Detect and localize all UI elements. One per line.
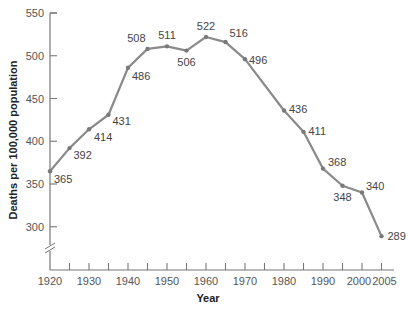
data-label: 511: [158, 29, 176, 41]
data-point: [87, 127, 91, 131]
y-tick-label: 400: [26, 135, 44, 147]
y-tick-label: 450: [26, 93, 44, 105]
tick-group: 3003504004505005501920193019401950196019…: [26, 7, 397, 287]
data-point: [165, 44, 169, 48]
data-point: [48, 169, 52, 173]
data-label: 414: [94, 131, 112, 143]
y-tick-label: 550: [26, 7, 44, 19]
data-label: 436: [289, 103, 307, 115]
x-tick-label: 1960: [194, 275, 218, 287]
data-label: 486: [132, 70, 150, 82]
y-tick-label: 350: [26, 178, 44, 190]
data-point: [301, 130, 305, 134]
data-point: [321, 166, 325, 170]
data-label: 392: [74, 149, 92, 161]
data-point: [204, 35, 208, 39]
data-point: [243, 57, 247, 61]
data-point: [184, 48, 188, 52]
line-chart: 3003504004505005501920193019401950196019…: [0, 0, 408, 310]
x-tick-label: 1930: [77, 275, 101, 287]
x-tick-label: 1950: [155, 275, 179, 287]
x-tick-label: 1990: [311, 275, 335, 287]
data-labels: 3653924144314865085115065225164964364113…: [54, 20, 406, 242]
data-label: 516: [230, 27, 248, 39]
data-label: 496: [249, 54, 267, 66]
x-tick-label: 2000: [347, 275, 371, 287]
data-point: [145, 47, 149, 51]
y-axis-title: Deaths per 100,000 population: [7, 60, 19, 219]
data-label: 348: [333, 191, 351, 203]
data-label: 522: [197, 20, 215, 32]
data-label: 368: [328, 156, 346, 168]
data-point: [360, 190, 364, 194]
data-point: [126, 66, 130, 70]
data-point: [223, 40, 227, 44]
x-axis-title: Year: [196, 292, 220, 304]
x-tick-label: 1980: [272, 275, 296, 287]
data-label: 340: [366, 180, 384, 192]
data-label: 365: [54, 173, 72, 185]
data-label: 411: [309, 125, 327, 137]
x-tick-label: 1920: [38, 275, 62, 287]
y-tick-label: 300: [26, 221, 44, 233]
data-point: [282, 108, 286, 112]
x-tick-label: 1970: [233, 275, 257, 287]
data-label: 506: [177, 56, 195, 68]
data-label: 289: [388, 230, 406, 242]
x-tick-label: 2005: [372, 275, 396, 287]
data-point: [340, 184, 344, 188]
data-label: 508: [127, 32, 145, 44]
x-tick-label: 1940: [116, 275, 140, 287]
data-point: [379, 234, 383, 238]
data-label: 431: [113, 115, 131, 127]
data-point: [106, 113, 110, 117]
data-point: [67, 146, 71, 150]
y-tick-label: 500: [26, 50, 44, 62]
